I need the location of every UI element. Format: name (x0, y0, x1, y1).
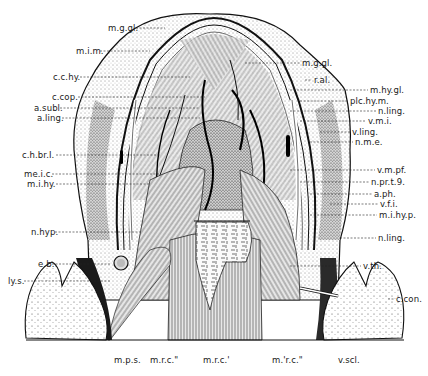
label-c-con: c.con. (396, 295, 422, 304)
label-c-c-hy: c.c.hy. (53, 73, 80, 82)
label-n-m-e: n.m.e. (355, 138, 383, 147)
label-plc-hy-m: plc.hy.m. (350, 97, 389, 106)
label-v-th: v.th. (363, 262, 382, 271)
label-n-pr-t-9: n.pr.t.9. (371, 178, 405, 187)
label-ly-s: ly.s. (8, 277, 25, 286)
anatomical-figure: m.g.gl. m.i.m. c.c.hy. c.cop. a.subl. a.… (0, 0, 428, 376)
dissection-drawing (0, 0, 428, 376)
label-v-scl: v.scl. (338, 356, 360, 365)
label-v-m-pf: v.m.pf. (377, 166, 406, 175)
label-n-ling-right-top: n.ling. (378, 107, 405, 116)
label-a-ph: a.ph. (374, 190, 396, 199)
label-m-g-gl-right: m.g.gl. (302, 59, 332, 68)
label-m-hy-gl: m.hy.gl. (370, 86, 404, 95)
label-c-cop: c.cop. (52, 93, 78, 102)
label-a-subl: a.subl. (34, 104, 63, 113)
label-m-i-hy: m.i.hy. (27, 180, 56, 189)
label-m-r-c-2-left: m.r.c." (150, 356, 178, 365)
label-m-r-c-1: m.r.c.' (203, 356, 230, 365)
label-n-ling-right-bottom: n.ling. (378, 234, 405, 243)
label-m-r-c-2-right: m.'r.c." (272, 356, 303, 365)
label-m-i-hy-p: m.i.hy.p. (379, 211, 416, 220)
label-r-al: r.al. (314, 76, 330, 85)
label-e-b: e.b. (38, 260, 54, 269)
label-v-ling: v.ling. (352, 128, 378, 137)
label-m-g-gl-left: m.g.gl. (108, 24, 138, 33)
label-c-h-br-I: c.h.br.I. (22, 151, 54, 160)
label-m-i-m: m.i.m. (76, 47, 104, 56)
label-n-hyp: n.hyp. (31, 228, 58, 237)
label-v-f-i: v.f.i. (380, 200, 398, 209)
label-a-ling-left: a.ling. (37, 114, 64, 123)
label-v-m-i: v.m.i. (368, 117, 392, 126)
label-m-p-s: m.p.s. (114, 356, 141, 365)
label-me-i-c: me.i.c. (24, 170, 53, 179)
